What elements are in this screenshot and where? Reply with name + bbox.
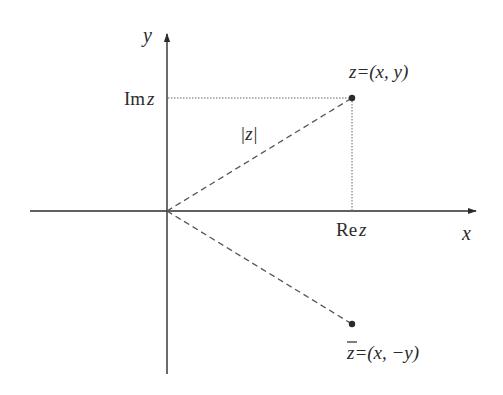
z-conjugate-vector xyxy=(167,211,352,324)
complex-plane-diagram: y x Imz Rez |z| z=(x, y) z=(x, −y) xyxy=(0,0,503,395)
im-z-label: Imz xyxy=(124,88,155,109)
modulus-label: |z| xyxy=(240,123,258,144)
x-axis-label: x xyxy=(461,222,471,244)
point-z-conjugate xyxy=(349,321,355,327)
point-z-conjugate-label: z=(x, −y) xyxy=(346,342,419,364)
re-z-label: Rez xyxy=(336,219,367,240)
y-axis-label: y xyxy=(141,24,152,47)
point-z xyxy=(349,95,355,101)
point-z-label: z=(x, y) xyxy=(348,61,408,83)
z-vector xyxy=(167,98,352,211)
